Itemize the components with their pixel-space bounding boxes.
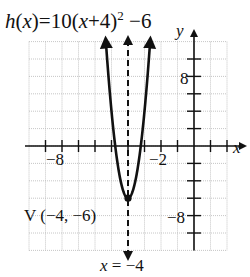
parabola-graph: x y −8 −2 8 −8 V (−4, −6) x = −4 — [0, 0, 250, 277]
y-tick-label-8: 8 — [180, 69, 189, 88]
axis-of-symmetry-label: x = −4 — [99, 256, 144, 275]
y-tick-label-neg8: −8 — [167, 208, 185, 227]
labels: x y −8 −2 8 −8 V (−4, −6) x = −4 — [24, 21, 241, 275]
x-axis-label: x — [232, 138, 241, 157]
vertex-point — [124, 195, 131, 202]
x-tick-label-neg2: −2 — [149, 150, 167, 169]
y-axis-label: y — [174, 21, 184, 40]
vertex-label: V (−4, −6) — [24, 206, 96, 225]
x-tick-label-neg8: −8 — [46, 150, 64, 169]
